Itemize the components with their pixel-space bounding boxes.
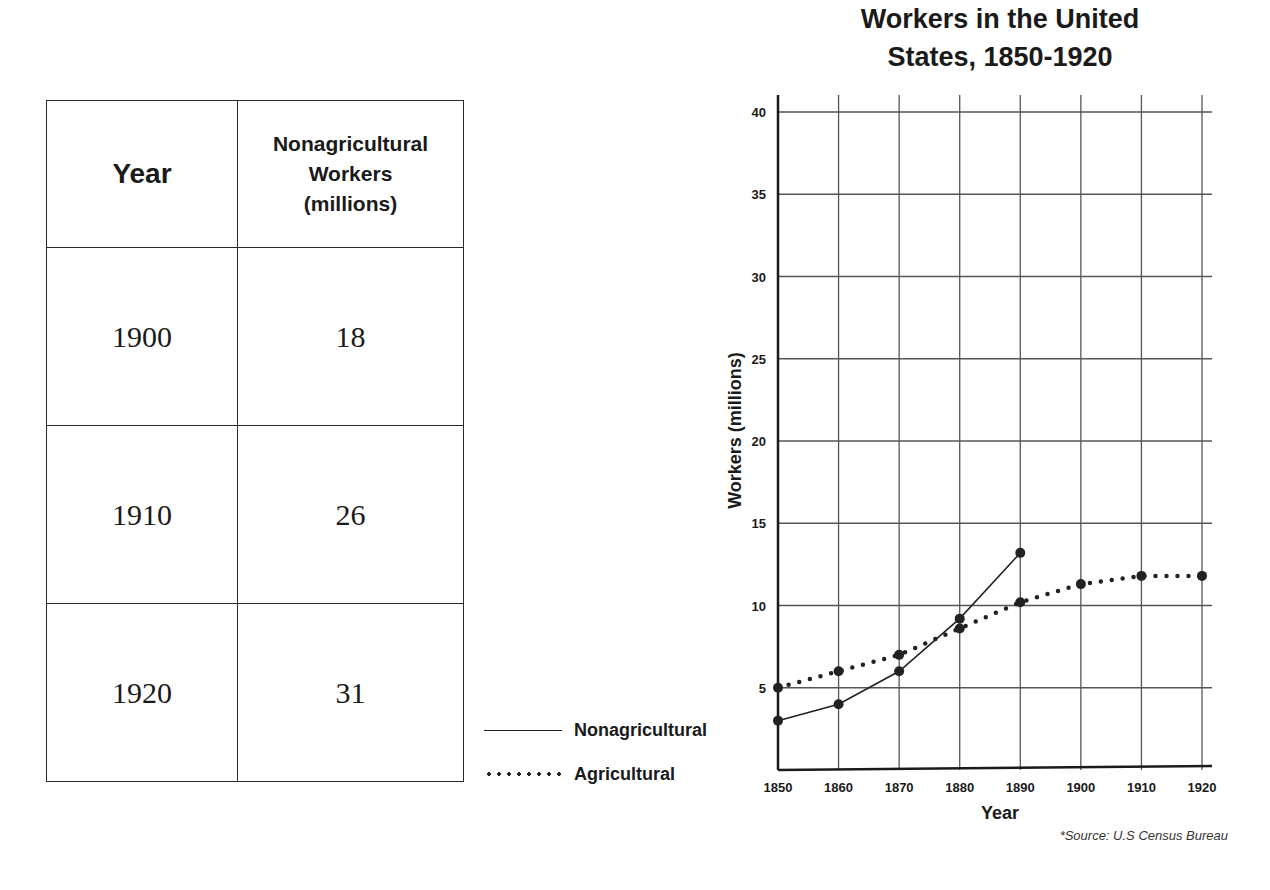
- x-axis-label: Year: [960, 803, 1040, 824]
- data-point-marker-icon: [1015, 548, 1025, 558]
- y-tick-label: 30: [752, 270, 766, 285]
- data-point-marker-icon: [955, 624, 965, 634]
- x-tick-label: 1860: [824, 780, 853, 795]
- data-point-marker-icon: [1136, 571, 1146, 581]
- x-tick-label: 1850: [764, 780, 793, 795]
- data-point-marker-icon: [894, 666, 904, 676]
- x-tick-label: 1880: [945, 780, 974, 795]
- solid-line-swatch-icon: [484, 730, 562, 731]
- y-axis-label: Workers (millions): [725, 336, 746, 526]
- legend-item-agricultural: Agricultural: [484, 752, 707, 796]
- dotted-line-swatch-icon: [484, 772, 562, 776]
- x-tick-label: 1870: [885, 780, 914, 795]
- data-point-marker-icon: [1015, 597, 1025, 607]
- legend-label: Nonagricultural: [574, 720, 707, 741]
- data-point-marker-icon: [834, 699, 844, 709]
- y-tick-label: 15: [752, 516, 766, 531]
- chart-legend: Nonagricultural Agricultural: [484, 708, 707, 796]
- x-axis: [778, 766, 1212, 770]
- x-tick-label: 1900: [1066, 780, 1095, 795]
- source-note: *Source: U.S Census Bureau: [1000, 828, 1228, 843]
- y-tick-label: 25: [752, 352, 766, 367]
- y-tick-label: 20: [752, 434, 766, 449]
- x-tick-label: 1890: [1006, 780, 1035, 795]
- data-point-marker-icon: [773, 683, 783, 693]
- y-tick-label: 40: [752, 105, 766, 120]
- data-point-marker-icon: [834, 666, 844, 676]
- data-point-marker-icon: [1197, 571, 1207, 581]
- y-tick-label: 10: [752, 599, 766, 614]
- x-tick-label: 1920: [1188, 780, 1217, 795]
- y-tick-label: 5: [759, 681, 766, 696]
- legend-item-nonagricultural: Nonagricultural: [484, 708, 707, 752]
- x-tick-label: 1910: [1127, 780, 1156, 795]
- data-point-marker-icon: [894, 650, 904, 660]
- legend-label: Agricultural: [574, 764, 675, 785]
- data-point-marker-icon: [773, 716, 783, 726]
- data-point-marker-icon: [955, 614, 965, 624]
- y-tick-label: 35: [752, 187, 766, 202]
- data-point-marker-icon: [1076, 579, 1086, 589]
